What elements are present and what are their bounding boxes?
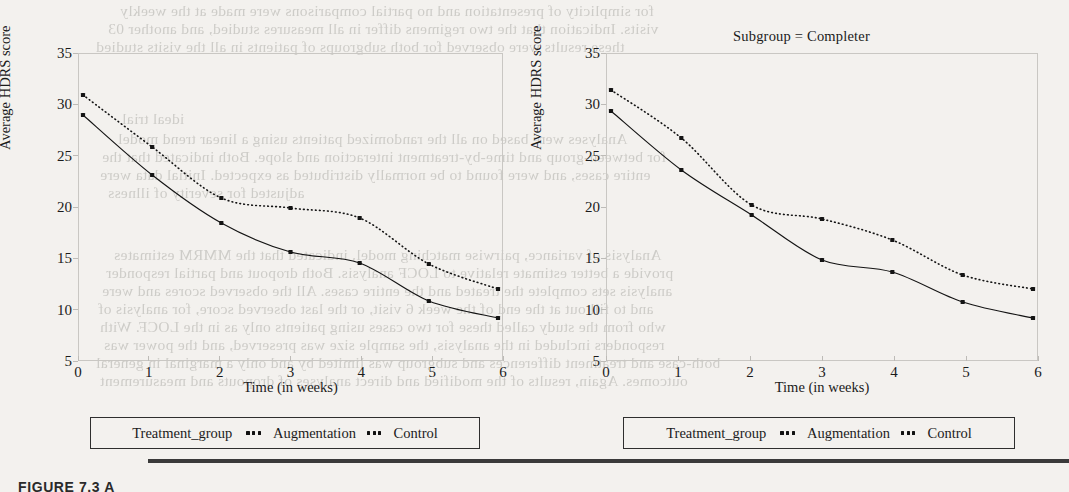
x-tick-mark: [432, 356, 433, 361]
data-point-marker: [609, 109, 613, 113]
data-point-marker: [820, 217, 824, 221]
data-point-marker: [358, 216, 362, 220]
data-point-marker: [961, 273, 965, 277]
legend-marker-augmentation-icon: [780, 431, 795, 434]
data-point-marker: [820, 258, 824, 262]
data-point-marker: [427, 299, 431, 303]
x-axis-label-left: Time (in weeks): [78, 379, 503, 396]
x-tick-mark: [503, 356, 504, 361]
y-tick-label: 35: [554, 45, 600, 62]
data-point-marker: [750, 213, 754, 217]
y-tick-label: 25: [554, 147, 600, 164]
y-tick-label: 10: [26, 301, 72, 318]
legend-label-control: Control: [393, 425, 437, 442]
data-point-marker: [961, 300, 965, 304]
x-tick-mark: [822, 356, 823, 361]
data-point-marker: [288, 206, 292, 210]
data-point-marker: [496, 287, 500, 291]
y-tick-label: 30: [26, 96, 72, 113]
data-point-marker: [219, 196, 223, 200]
chart-panel-left: Average HDRS score 5101520253035 0123456…: [0, 0, 534, 462]
data-point-marker: [1031, 287, 1035, 291]
data-point-marker: [219, 221, 223, 225]
x-tick-mark: [750, 356, 751, 361]
y-axis-ticks-right: 5101520253035: [554, 53, 600, 361]
legend-label-augmentation: Augmentation: [807, 425, 890, 442]
x-tick-mark: [966, 356, 967, 361]
y-tick-label: 20: [26, 199, 72, 216]
data-point-marker: [890, 270, 894, 274]
plot-area-left: [78, 53, 503, 361]
x-tick-mark: [148, 356, 149, 361]
data-point-marker: [750, 203, 754, 207]
y-tick-label: 25: [26, 147, 72, 164]
y-tick-label: 5: [554, 353, 600, 370]
x-tick-mark: [219, 356, 220, 361]
series-line-augmentation: [83, 95, 498, 289]
plot-area-right: [606, 53, 1038, 361]
line-chart-left: [79, 54, 502, 360]
panel-title-right: Subgroup = Completer: [534, 28, 1069, 45]
series-line-control: [83, 115, 498, 318]
y-tick-label: 35: [26, 45, 72, 62]
y-axis-label-right: Average HDRS score: [528, 25, 545, 150]
legend-title: Treatment_group: [132, 425, 232, 442]
y-axis-ticks-left: 5101520253035: [26, 53, 72, 361]
legend-title: Treatment_group: [666, 425, 766, 442]
line-chart-right: [607, 54, 1037, 360]
legend-marker-control-icon: [367, 431, 382, 434]
legend-label-control: Control: [927, 425, 971, 442]
series-line-control: [611, 111, 1033, 318]
x-tick-mark: [78, 356, 79, 361]
x-tick-mark: [361, 356, 362, 361]
legend-right: Treatment_group Augmentation Control: [623, 417, 1015, 449]
x-tick-mark: [1038, 356, 1039, 361]
data-point-marker: [890, 238, 894, 242]
data-point-marker: [427, 262, 431, 266]
data-point-marker: [150, 173, 154, 177]
data-point-marker: [496, 316, 500, 320]
data-point-marker: [288, 250, 292, 254]
data-point-marker: [81, 113, 85, 117]
x-axis-label-right: Time (in weeks): [606, 379, 1038, 396]
legend-marker-control-icon: [901, 431, 916, 434]
x-tick-mark: [678, 356, 679, 361]
data-point-marker: [81, 93, 85, 97]
figure-rule: [148, 459, 1069, 463]
y-tick-label: 15: [554, 250, 600, 267]
data-point-marker: [609, 88, 613, 92]
y-tick-label: 10: [554, 301, 600, 318]
legend-label-augmentation: Augmentation: [273, 425, 356, 442]
y-axis-label-left: Average HDRS score: [0, 25, 14, 150]
data-point-marker: [679, 136, 683, 140]
data-point-marker: [150, 145, 154, 149]
y-tick-label: 30: [554, 96, 600, 113]
y-tick-label: 20: [554, 199, 600, 216]
y-tick-label: 15: [26, 250, 72, 267]
legend-left: Treatment_group Augmentation Control: [90, 417, 480, 449]
x-tick-mark: [290, 356, 291, 361]
x-tick-mark: [894, 356, 895, 361]
y-tick-label: 5: [26, 353, 72, 370]
legend-marker-augmentation-icon: [246, 431, 261, 434]
data-point-marker: [358, 261, 362, 265]
chart-panel-right: Subgroup = Completer Average HDRS score …: [534, 0, 1069, 462]
figure-caption: FIGURE 7.3 A: [18, 479, 115, 492]
data-point-marker: [679, 168, 683, 172]
x-tick-mark: [606, 356, 607, 361]
data-point-marker: [1031, 316, 1035, 320]
